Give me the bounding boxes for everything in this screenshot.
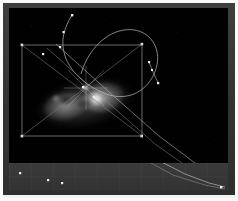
marker-footer-right bbox=[220, 186, 222, 188]
marker-core bbox=[82, 86, 84, 88]
footer-data-band bbox=[9, 163, 228, 190]
marker-right-tail bbox=[157, 82, 159, 84]
background-stars bbox=[31, 20, 216, 155]
diffraction-spikes bbox=[64, 66, 108, 110]
descending-trajectory bbox=[56, 44, 199, 163]
marker-arc-upper bbox=[63, 31, 65, 33]
corner-marker-bottom-left bbox=[21, 135, 24, 138]
descending-trajectory-secondary-footer bbox=[129, 163, 225, 189]
screenshot-root bbox=[0, 0, 238, 201]
marker-box-upper-left bbox=[42, 53, 44, 55]
trajectory-markers-footer bbox=[19, 172, 222, 188]
footer-overlay-graphics bbox=[9, 163, 228, 190]
overlay-graphics bbox=[9, 8, 228, 163]
marker-footer-mid bbox=[47, 179, 49, 181]
marker-arc-apex bbox=[59, 46, 61, 48]
marker-top bbox=[71, 14, 73, 16]
marker-right-branch-2 bbox=[151, 69, 153, 71]
marker-footer-mid-2 bbox=[61, 182, 63, 184]
corner-marker-top-left bbox=[21, 44, 24, 47]
trajectory-arc bbox=[63, 15, 158, 97]
corner-marker-bottom-right bbox=[140, 135, 143, 138]
sky-image-panel bbox=[9, 8, 228, 163]
corner-marker-top-right bbox=[141, 43, 144, 46]
marker-core-2 bbox=[93, 96, 95, 98]
marker-footer-left bbox=[19, 172, 21, 174]
marker-right-branch bbox=[148, 61, 150, 63]
